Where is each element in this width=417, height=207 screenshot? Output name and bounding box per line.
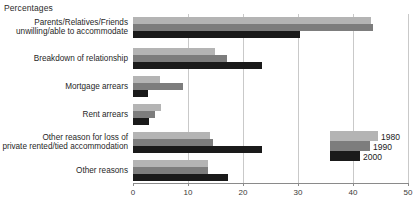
category-label: Other reasons xyxy=(76,166,128,176)
bar-1980 xyxy=(133,17,371,24)
bar-1980 xyxy=(133,132,210,139)
bar-1990 xyxy=(133,139,213,146)
bar-1980 xyxy=(133,104,161,111)
x-axis-line xyxy=(133,183,409,184)
category-axis-labels: Parents/Relatives/Friends unwilling/able… xyxy=(0,14,131,183)
x-axis-tick-label: 30 xyxy=(294,188,303,197)
bar-1980 xyxy=(133,76,160,83)
gridline xyxy=(408,14,409,183)
category-label: Other reason for loss of private rented/… xyxy=(2,133,128,152)
legend-label-1980: 1980 xyxy=(381,132,400,142)
legend-label-2000: 2000 xyxy=(363,152,382,162)
bar-2000 xyxy=(133,118,149,125)
bar-1990 xyxy=(133,55,227,62)
x-axis-tick-label: 0 xyxy=(131,188,135,197)
category-label: Mortgage arrears xyxy=(65,82,128,92)
bar-1990 xyxy=(133,111,155,118)
x-axis-tick xyxy=(408,183,409,186)
x-axis-tick xyxy=(353,183,354,186)
bar-2000 xyxy=(133,90,148,97)
x-axis-tick-label: 10 xyxy=(184,188,193,197)
legend-swatch-2000 xyxy=(330,151,360,161)
bar-1990 xyxy=(133,167,208,174)
x-axis-tick-label: 20 xyxy=(239,188,248,197)
bar-2000 xyxy=(133,62,262,69)
bar-1990 xyxy=(133,24,373,31)
x-axis-tick xyxy=(243,183,244,186)
x-axis-tick xyxy=(298,183,299,186)
category-label: Rent arrears xyxy=(82,110,128,120)
category-label: Parents/Relatives/Friends unwilling/able… xyxy=(16,18,128,37)
bar-1990 xyxy=(133,83,183,90)
bar-2000 xyxy=(133,31,300,38)
bar-2000 xyxy=(133,146,262,153)
x-axis-tick-label: 40 xyxy=(349,188,358,197)
x-axis-tick-label: 50 xyxy=(404,188,413,197)
x-axis-tick xyxy=(188,183,189,186)
bar-1980 xyxy=(133,48,215,55)
bar-1980 xyxy=(133,160,208,167)
legend-swatch-1990 xyxy=(330,141,370,151)
percentages-bar-chart: Percentages Parents/Relatives/Friends un… xyxy=(0,0,417,207)
x-axis-tick xyxy=(133,183,134,186)
page-title: Percentages xyxy=(4,3,53,13)
category-label: Breakdown of relationship xyxy=(34,54,128,64)
legend-label-1990: 1990 xyxy=(373,142,392,152)
legend-swatch-1980 xyxy=(330,131,378,141)
bar-2000 xyxy=(133,174,228,181)
